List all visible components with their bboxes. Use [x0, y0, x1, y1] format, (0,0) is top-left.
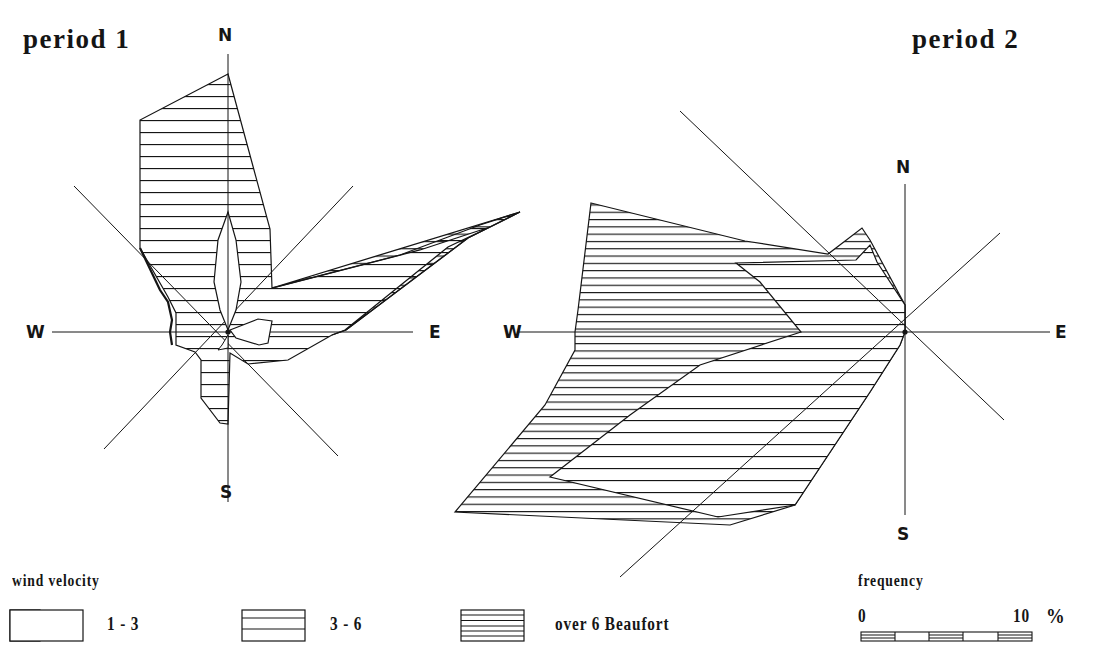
scale-title: frequency: [858, 572, 924, 590]
legend-label-over-6: over 6 Beaufort: [555, 614, 669, 635]
scale-max-label: 10: [1013, 606, 1030, 627]
legend-label-1-3: 1 - 3: [107, 614, 139, 635]
wind-rose-diagram: [0, 0, 1096, 670]
period-1-rose: [52, 54, 520, 502]
legend-swatch-3-6: [242, 610, 305, 641]
scale-min-label: 0: [858, 606, 867, 627]
period-2-rose: [455, 111, 1050, 577]
velocity-legend: [10, 610, 524, 641]
scale-unit-label: %: [1046, 603, 1066, 629]
legend-swatch-over-6: [461, 610, 524, 641]
frequency-scale-bar: [861, 632, 1032, 641]
period-1-velocity-3-6-area: [140, 74, 520, 424]
legend-title: wind velocity: [12, 572, 100, 590]
legend-label-3-6: 3 - 6: [330, 614, 362, 635]
